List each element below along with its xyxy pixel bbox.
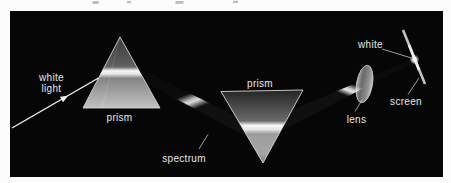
label-white-spot: white bbox=[357, 39, 383, 50]
cropped-text-fragments bbox=[93, 1, 239, 4]
white-focus-spot bbox=[410, 55, 420, 65]
label-prism-left: prism bbox=[107, 112, 133, 123]
diagram-canvas: white light prism spectrum prism lens wh… bbox=[0, 0, 451, 183]
figure-optics-diagram: white light prism spectrum prism lens wh… bbox=[0, 0, 451, 183]
label-spectrum: spectrum bbox=[162, 153, 206, 164]
label-prism-right: prism bbox=[247, 78, 273, 89]
label-screen: screen bbox=[390, 96, 422, 107]
label-lens: lens bbox=[347, 114, 367, 125]
label-white-light-line1: white bbox=[38, 72, 64, 83]
label-white-light-line2: light bbox=[42, 83, 62, 94]
